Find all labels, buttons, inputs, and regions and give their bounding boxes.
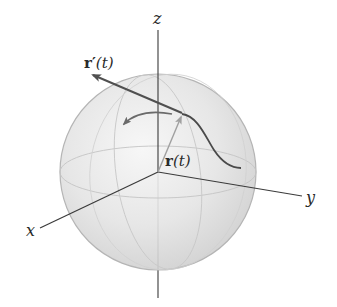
y-axis-label: y <box>305 188 316 207</box>
tangent-vector-label: r′(t) <box>84 54 114 72</box>
x-axis-label: x <box>26 221 35 240</box>
position-vector-label: r(t) <box>165 152 191 170</box>
tangent-label-arg: (t) <box>96 54 114 72</box>
position-label-arg: (t) <box>173 152 191 170</box>
sphere-diagram: z y x r′(t) r(t) <box>0 0 337 307</box>
tangent-label-main: r′ <box>84 54 96 72</box>
z-axis-label: z <box>152 9 162 28</box>
